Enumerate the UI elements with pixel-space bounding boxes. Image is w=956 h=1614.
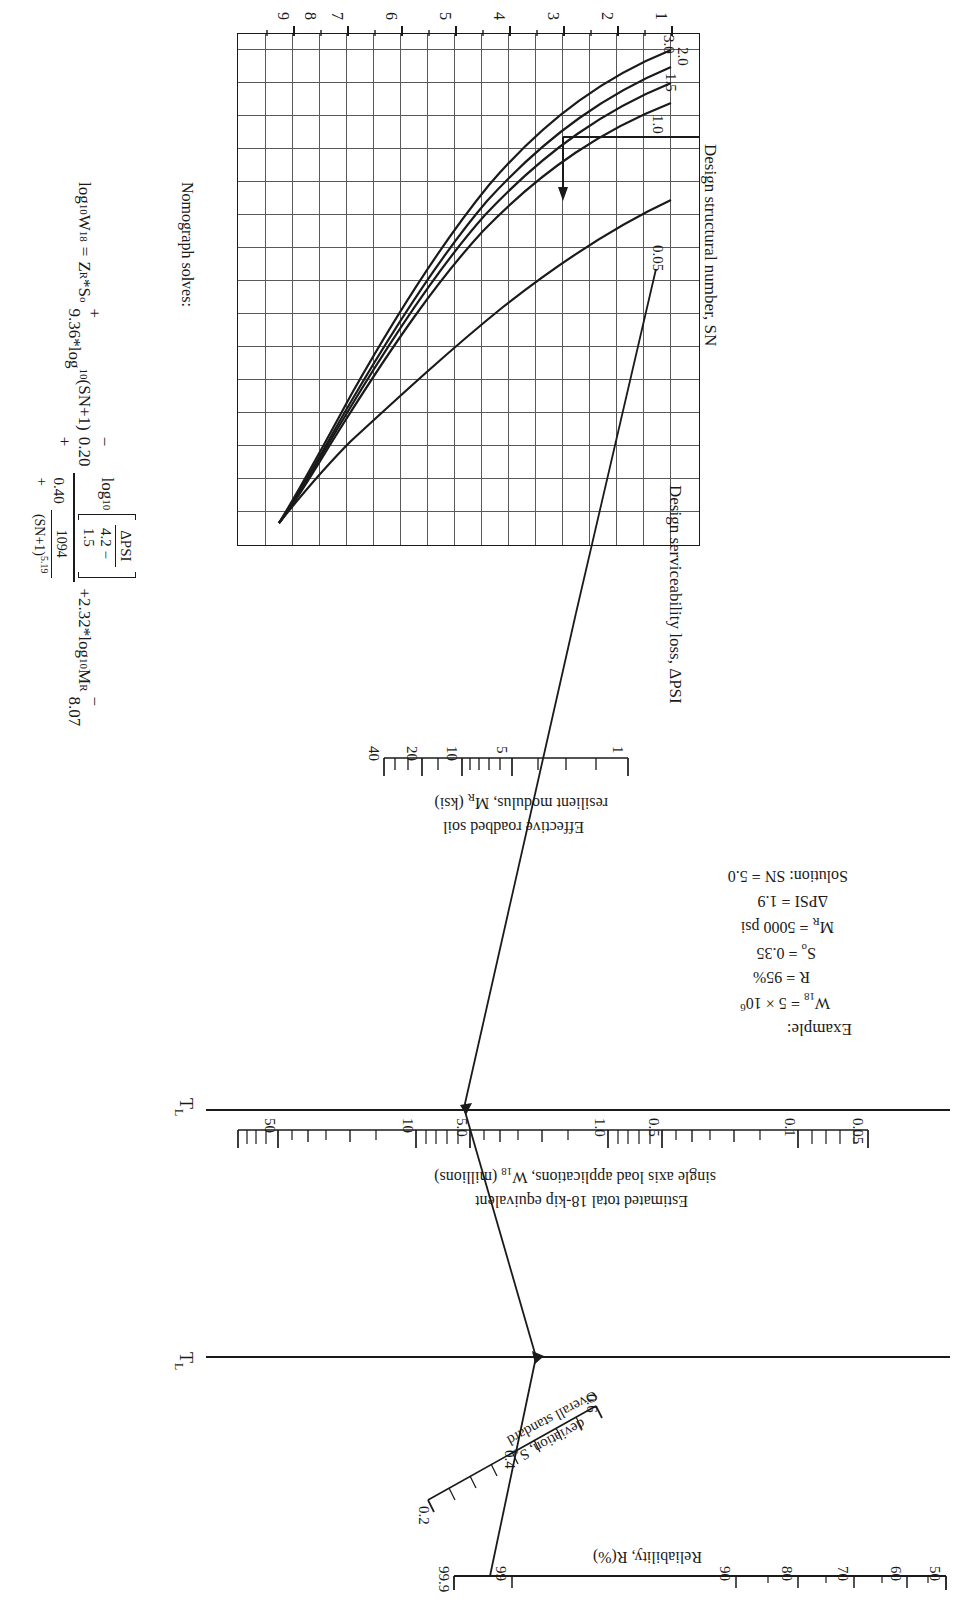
eq-tail-m: M bbox=[74, 669, 94, 684]
so-scale: 0.6 0.4 0.2 deviation, So Overall standa… bbox=[384, 1376, 604, 1526]
eq-tail-sub: 10 bbox=[78, 658, 90, 669]
sn-tick-3: 3 bbox=[544, 12, 562, 20]
eq-lhs-var-sub: 18 bbox=[78, 231, 90, 242]
example-row-mr-sub: R bbox=[812, 916, 819, 928]
sn-tick-5: 5 bbox=[436, 12, 454, 20]
example-row-w18-sym: W bbox=[815, 995, 830, 1012]
example-row-so-sym: S bbox=[807, 945, 816, 962]
w18-tick-0-1: 0.1 bbox=[781, 1118, 798, 1137]
example-row-dpsi-sym: ΔPSI bbox=[795, 893, 828, 910]
eq-frac-log: log bbox=[97, 477, 117, 499]
reliability-tick-90: 90 bbox=[716, 1566, 733, 1581]
eq-star-s: *S bbox=[74, 279, 94, 297]
chart-arrow-up-head bbox=[558, 187, 568, 201]
sn-tick-9: 9 bbox=[274, 12, 292, 20]
eq-frac-log-sub: 10 bbox=[101, 499, 113, 510]
nomograph-equation: log10W18 = ZR*So + 9.36*log10(SN+1) − 0.… bbox=[31, 182, 136, 726]
mr-scale: 1 5 10 20 40 resilient modulus, MR (ksi)… bbox=[376, 734, 636, 854]
curve-1-5 bbox=[279, 83, 671, 523]
eq-lhs-log: log bbox=[74, 182, 94, 204]
turning-line-2-label-sub: L bbox=[172, 1109, 186, 1116]
reliability-tick-99: 99 bbox=[492, 1566, 509, 1581]
example-row-mr-sym: M bbox=[820, 919, 834, 936]
w18-tick-0-05: 0.05 bbox=[849, 1118, 866, 1144]
curve-3-0 bbox=[279, 50, 671, 523]
example-row-mr-eq: = 5000 psi bbox=[741, 919, 813, 936]
mr-axis-label-line1: Effective roadbed soil bbox=[443, 818, 584, 836]
w18-axis-label-line1: Estimated total 18-kip equivalent bbox=[475, 1192, 688, 1210]
sn-tick-4: 4 bbox=[490, 12, 508, 20]
example-row-so-sub: o bbox=[802, 942, 808, 954]
turning-line-2 bbox=[206, 1099, 950, 1119]
turning-line-2-label: TL bbox=[171, 1098, 196, 1116]
example-solution: Solution: SN = 5.0 bbox=[728, 865, 848, 888]
example-row-r-eq: = 95% bbox=[753, 969, 799, 986]
reliability-tick-60: 60 bbox=[887, 1566, 904, 1581]
example-row-w18-sup: 6 bbox=[740, 1002, 746, 1014]
mr-tick-40: 40 bbox=[365, 746, 382, 761]
design-chart-title-b: ΔPSI bbox=[666, 668, 685, 704]
curve-label-1-5: 1.5 bbox=[662, 73, 679, 92]
mr-tick-1: 1 bbox=[609, 746, 626, 754]
w18-tick-5-0: 5.0 bbox=[453, 1118, 470, 1137]
nomograph-figure: Example: W18 = 5 × 106 R = 95% So = 0.35… bbox=[0, 0, 956, 1614]
curve-label-0-05: 0.05 bbox=[649, 245, 666, 271]
design-chart-box: 0.05 1.0 1.5 2.0 3.0 Design serviceabili… bbox=[237, 33, 700, 546]
eq-zr-sub: R bbox=[78, 272, 90, 279]
curve-0-05 bbox=[279, 200, 671, 523]
eq-sn1: (SN+1) bbox=[74, 380, 94, 431]
sn-axis-title: Design structural number, SN bbox=[700, 144, 720, 346]
w18-tick-0-5: 0.5 bbox=[645, 1118, 662, 1137]
curve-1-0 bbox=[279, 103, 671, 523]
eq-tail: +2.32*log bbox=[74, 589, 94, 659]
reliability-tick-80: 80 bbox=[778, 1566, 795, 1581]
reliability-axis-label: Reliability, R(%) bbox=[593, 1548, 702, 1566]
mr-axis-label-line2-a: resilient modulus, M bbox=[475, 795, 608, 812]
so-tick-0-2: 0.2 bbox=[415, 1506, 432, 1525]
mr-tick-5: 5 bbox=[493, 746, 510, 754]
w18-axis-label-line2-sub: 18 bbox=[501, 1166, 512, 1178]
mr-axis-label-line2: resilient modulus, MR (ksi) bbox=[434, 792, 608, 812]
eq-den-den-sup: 5.19 bbox=[39, 556, 50, 574]
example-block: Example: W18 = 5 × 106 R = 95% So = 0.35… bbox=[728, 865, 852, 1039]
turning-line-1-svg bbox=[206, 1340, 950, 1374]
eq-lhs-log-sub: 10 bbox=[78, 204, 90, 215]
w18-axis-label-line2-b: (millions) bbox=[434, 1169, 501, 1186]
curve-label-1-0: 1.0 bbox=[649, 115, 666, 134]
reliability-tick-50: 50 bbox=[926, 1566, 943, 1581]
eq-den-num: 1094 bbox=[52, 526, 69, 562]
eq-minus020: − 0.20 + bbox=[54, 431, 114, 467]
curve-label-3-0: 3.0 bbox=[660, 35, 677, 54]
nomograph-solves-label: Nomograph solves: bbox=[178, 182, 196, 307]
example-heading: Example: bbox=[728, 1019, 852, 1039]
eq-936: + 9.36*log bbox=[64, 303, 104, 369]
w18-tick-10: 10 bbox=[399, 1118, 416, 1133]
eq-den-a: 0.40 + bbox=[33, 477, 67, 504]
eq-equals: = bbox=[74, 242, 94, 262]
example-row-dpsi: ΔPSI = 1.9 bbox=[728, 890, 828, 913]
eq-den-den: (SN+1) bbox=[32, 514, 47, 556]
mr-tick-20: 20 bbox=[403, 746, 420, 761]
design-chart-curves bbox=[236, 32, 699, 545]
example-row-r-sym: R bbox=[799, 969, 810, 986]
design-chart-title: Design serviceability loss, ΔPSI bbox=[665, 485, 685, 704]
turning-line-1-label: TL bbox=[171, 1352, 196, 1370]
w18-axis-label-line2: single axis load applications, W18 (mill… bbox=[434, 1166, 716, 1186]
example-row-so-eq: = 0.35 bbox=[757, 945, 802, 962]
w18-axis-label-line2-a: single axis load applications, W bbox=[512, 1169, 716, 1186]
mr-axis-label-line2-b: (ksi) bbox=[434, 795, 467, 812]
eq-frac-num-bot: 4.2 − 1.5 bbox=[80, 525, 115, 567]
example-row-mr: MR = 5000 psi bbox=[728, 913, 834, 939]
mr-tick-10: 10 bbox=[443, 746, 460, 761]
sn-tick-1: 1 bbox=[652, 12, 670, 20]
eq-frac-num-top: ΔPSI bbox=[116, 527, 134, 564]
w18-tick-1-0: 1.0 bbox=[591, 1118, 608, 1137]
eq-lhs-var: W bbox=[74, 215, 94, 231]
example-row-so: So = 0.35 bbox=[728, 939, 816, 965]
sn-tick-6: 6 bbox=[382, 12, 400, 20]
example-row-dpsi-eq: = 1.9 bbox=[758, 893, 795, 910]
example-row-r: R = 95% bbox=[728, 965, 810, 988]
eq-zr: Z bbox=[74, 261, 94, 271]
reliability-tick-99-9: 99.9 bbox=[435, 1566, 452, 1592]
eq-tail-m-sub: R bbox=[78, 684, 90, 691]
